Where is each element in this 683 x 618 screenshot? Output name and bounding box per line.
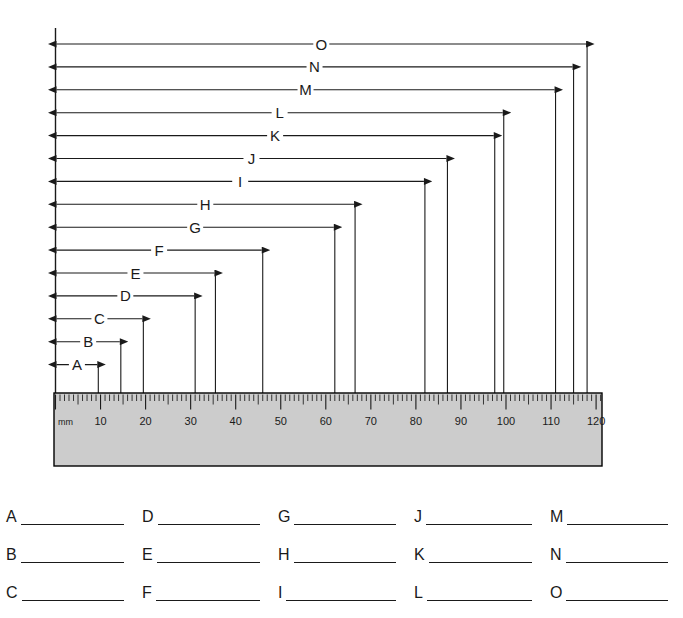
answer-blank-h[interactable] [294,548,396,563]
ruler-number: 100 [497,415,515,427]
ruler-number: 60 [320,415,332,427]
answer-label-g: G [278,509,294,525]
answer-blank-j[interactable] [426,510,532,525]
answer-label-i: I [278,585,286,601]
ruler-number: 50 [275,415,287,427]
answer-blank-e[interactable] [157,548,260,563]
ruler-number: 10 [94,415,106,427]
answer-cell-d[interactable]: D [136,509,272,525]
answer-cell-c[interactable]: C [0,585,136,601]
answer-label-l: L [414,585,427,601]
answer-blank-b[interactable] [21,548,124,563]
ruler-unit-label: mm [58,417,73,427]
measure-label-o: O [315,36,327,53]
answer-row: BEHKN [0,536,683,574]
answer-blank-g[interactable] [294,510,396,525]
measurement-worksheet: ABCDEFGHIJKLMNO1020304050607080901001101… [0,0,683,618]
measure-label-f: F [155,242,164,259]
measure-label-b: B [83,333,93,350]
answer-label-k: K [414,547,429,563]
measure-label-j: J [248,150,256,167]
answer-blank-d[interactable] [158,510,260,525]
answer-label-j: J [414,509,426,525]
measure-label-i: I [238,173,242,190]
measure-label-m: M [299,81,312,98]
answer-blank-l[interactable] [427,586,532,601]
answer-label-d: D [142,509,158,525]
answer-cell-h[interactable]: H [272,547,408,563]
measure-label-l: L [275,104,283,121]
answer-blank-c[interactable] [22,586,124,601]
ruler-number: 90 [455,415,467,427]
answer-blank-a[interactable] [21,510,124,525]
answer-blanks-area: ADGJM BEHKN CFILO [0,498,683,618]
answer-cell-m[interactable]: M [544,509,680,525]
answer-blank-i[interactable] [286,586,396,601]
answer-label-h: H [278,547,294,563]
measure-label-n: N [309,58,320,75]
answer-blank-m[interactable] [567,510,668,525]
ruler-number: 40 [230,415,242,427]
answer-row: ADGJM [0,498,683,536]
measure-label-d: D [120,287,131,304]
answer-blank-n[interactable] [566,548,668,563]
answer-blank-k[interactable] [429,548,532,563]
answer-cell-j[interactable]: J [408,509,544,525]
measure-label-a: A [72,356,82,373]
ruler-number: 20 [139,415,151,427]
answer-label-f: F [142,585,156,601]
answer-cell-l[interactable]: L [408,585,544,601]
answer-label-m: M [550,509,567,525]
answer-cell-i[interactable]: I [272,585,408,601]
answer-cell-k[interactable]: K [408,547,544,563]
answer-cell-o[interactable]: O [544,585,680,601]
ruler-number: 30 [185,415,197,427]
measure-label-k: K [270,127,280,144]
answer-cell-n[interactable]: N [544,547,680,563]
ruler-number: 80 [410,415,422,427]
answer-cell-a[interactable]: A [0,509,136,525]
answer-row: CFILO [0,574,683,612]
measure-label-c: C [94,310,105,327]
ruler-diagram: ABCDEFGHIJKLMNO1020304050607080901001101… [0,0,683,500]
answer-blank-o[interactable] [566,586,668,601]
answer-label-a: A [6,509,21,525]
ruler-number: 120 [587,415,605,427]
ruler-number: 110 [542,415,560,427]
ruler-number: 70 [365,415,377,427]
answer-label-e: E [142,547,157,563]
answer-label-o: O [550,585,566,601]
measure-label-h: H [200,196,211,213]
measure-label-g: G [189,219,201,236]
measure-label-e: E [130,265,140,282]
answer-cell-b[interactable]: B [0,547,136,563]
answer-blank-f[interactable] [156,586,260,601]
answer-label-b: B [6,547,21,563]
answer-label-n: N [550,547,566,563]
answer-cell-f[interactable]: F [136,585,272,601]
answer-cell-e[interactable]: E [136,547,272,563]
answer-cell-g[interactable]: G [272,509,408,525]
ruler-body [54,393,602,466]
answer-label-c: C [6,585,22,601]
